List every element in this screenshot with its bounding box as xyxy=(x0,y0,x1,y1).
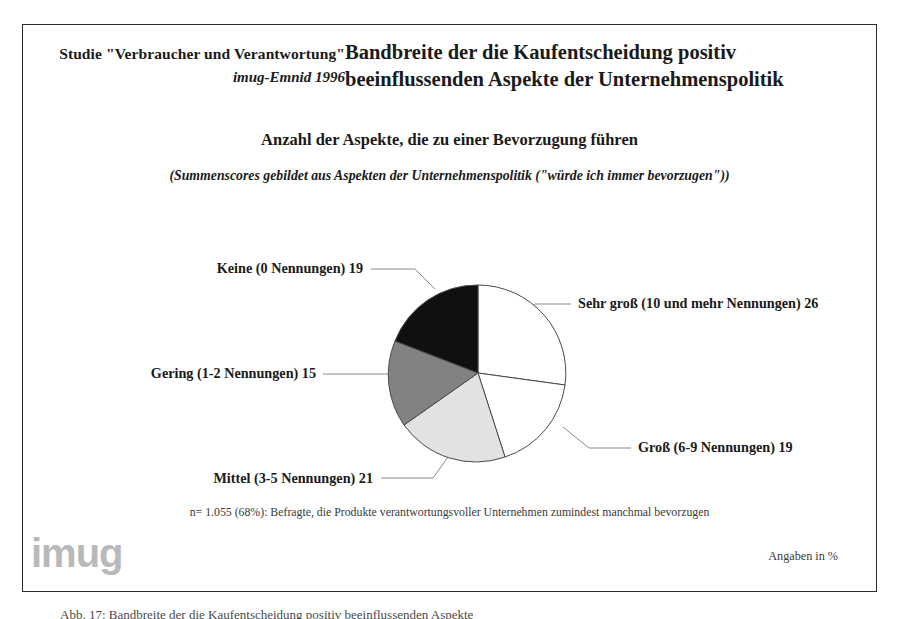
study-title: Studie "Verbraucher und Verantwortung" xyxy=(35,43,345,65)
pie-label-gering: Gering (1-2 Nennungen) 15 xyxy=(101,366,316,380)
pie-slices xyxy=(388,285,566,462)
figure-caption: Abb. 17: Bandbreite der die Kaufentschei… xyxy=(60,607,473,619)
study-header: Studie "Verbraucher und Verantwortung" i… xyxy=(35,43,345,89)
chart-subtitle: (Summenscores gebildet aus Aspekten der … xyxy=(23,168,876,184)
chart-footnote: n= 1.055 (68%): Befragte, die Produkte v… xyxy=(23,505,876,520)
study-source: imug-Emnid 1996 xyxy=(35,67,345,89)
chart-frame: Studie "Verbraucher und Verantwortung" i… xyxy=(22,24,877,592)
units-note: Angaben in % xyxy=(768,549,838,564)
leader-line-gross xyxy=(563,427,631,448)
pie-label-keine: Keine (0 Nennungen) 19 xyxy=(173,261,363,275)
pie-label-gross: Groß (6-9 Nennungen) 19 xyxy=(638,440,868,454)
leader-line-keine xyxy=(371,269,435,289)
pie-chart: Keine (0 Nennungen) 19 Sehr groß (10 und… xyxy=(23,205,878,495)
pie-label-sehr-gross: Sehr groß (10 und mehr Nennungen) 26 xyxy=(578,296,868,310)
leader-line-mittel xyxy=(381,453,451,478)
chart-title: Anzahl der Aspekte, die zu einer Bevorzu… xyxy=(23,130,876,150)
pie-slice-sehr-gross xyxy=(478,285,566,385)
page-title: Bandbreite der die Kaufentscheidung posi… xyxy=(345,39,865,94)
pie-label-mittel: Mittel (3-5 Nennungen) 21 xyxy=(163,471,373,485)
imug-logo: imug xyxy=(31,533,123,573)
